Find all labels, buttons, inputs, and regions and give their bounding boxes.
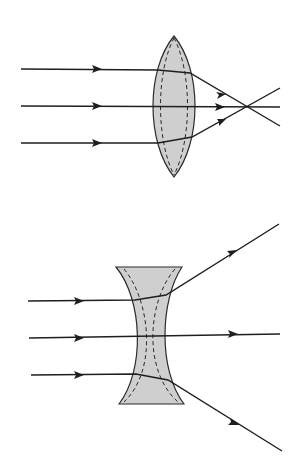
arrow-icon: [227, 250, 237, 258]
lens-diagram: [0, 0, 305, 474]
arrow-icon: [74, 334, 84, 342]
ray-middle-converging: [21, 106, 280, 107]
diverging-lens-group: [28, 224, 282, 451]
ray-top-converging: [21, 69, 280, 126]
ray-bottom-converging: [21, 88, 280, 143]
converging-lens-group: [21, 36, 280, 177]
arrow-icon: [228, 330, 238, 338]
